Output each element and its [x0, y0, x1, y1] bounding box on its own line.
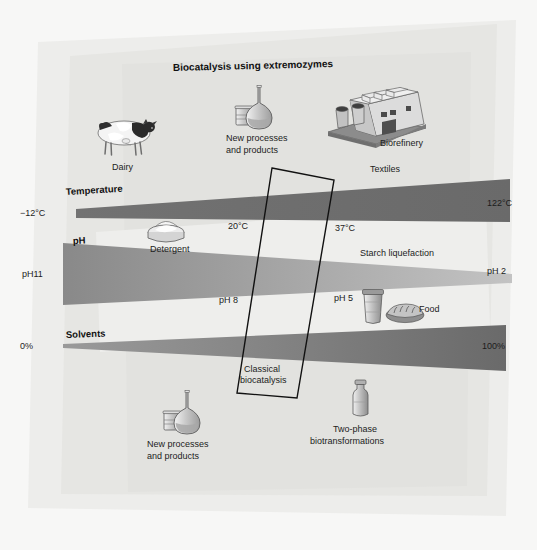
ph-left-label: pH11	[22, 269, 43, 279]
classical-biocatalysis-label-line2: biocatalysis	[240, 375, 287, 385]
ph-axis-name: pH	[73, 234, 86, 246]
new-processes-2-label-line2: and products	[147, 451, 200, 461]
classical-biocatalysis-label-line1: Classical	[244, 364, 280, 374]
dairy-label: Dairy	[112, 162, 134, 172]
detergent-label: Detergent	[150, 244, 190, 254]
new-processes-1-label-line1: New processes	[226, 133, 288, 143]
starch-liquefaction-label: Starch liquefaction	[360, 248, 434, 258]
new-processes-1-label-line2: and products	[226, 145, 279, 155]
temperature-right-label: 122°C	[487, 198, 513, 208]
temperature-inner-left-label: 20°C	[228, 221, 249, 231]
temperature-inner-right-label: 37°C	[335, 223, 356, 233]
ph-inner-left-label: pH 8	[219, 295, 238, 305]
biorefinery-label: Biorefinery	[380, 138, 424, 148]
ph-inner-right-label: pH 5	[334, 293, 353, 303]
two-phase-label-line1: Two-phase	[333, 424, 377, 434]
solvents-right-label: 100%	[482, 341, 505, 351]
food-label: Food	[419, 304, 440, 314]
two-phase-label-line2: biotransformations	[310, 436, 385, 446]
figure-canvas: Temperature −12°C 122°C 20°C 37°C pH pH1…	[0, 0, 537, 550]
new-processes-2-label-line1: New processes	[147, 439, 209, 449]
ph-right-label: pH 2	[487, 266, 506, 276]
temperature-left-label: −12°C	[20, 208, 46, 218]
textiles-label: Textiles	[370, 164, 401, 174]
solvents-axis-name: Solvents	[66, 328, 106, 340]
solvents-left-label: 0%	[20, 341, 33, 351]
